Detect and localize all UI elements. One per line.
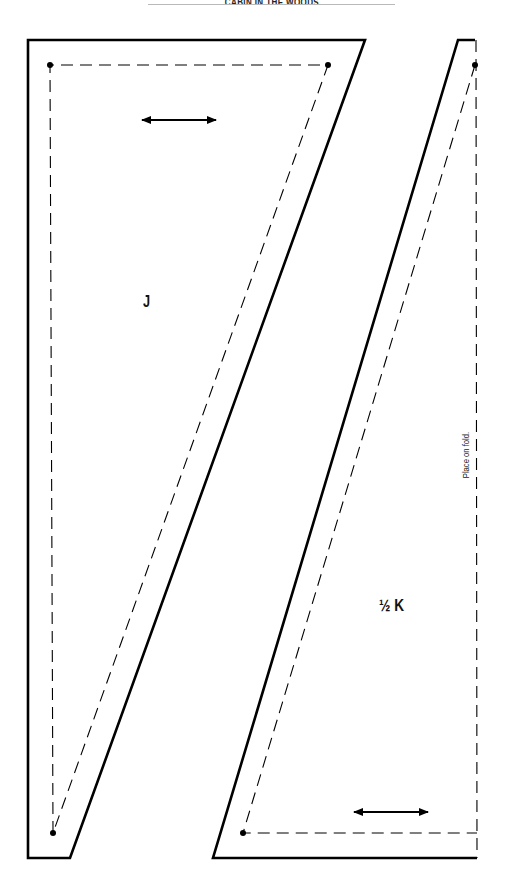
piece-k-seam-line xyxy=(243,65,477,833)
piece-j-dot-top-right xyxy=(325,62,331,68)
piece-k-label-letter: K xyxy=(394,596,404,615)
piece-k-cutting-line xyxy=(213,40,477,858)
pattern-piece-k xyxy=(213,40,478,858)
piece-k-label-fraction: ½ xyxy=(379,596,390,615)
piece-k-label: ½ K xyxy=(379,596,404,616)
piece-j-seam-line xyxy=(50,65,328,833)
piece-k-dot-bottom xyxy=(240,830,246,836)
piece-k-fold-line xyxy=(476,40,477,858)
place-on-fold-note: Place on fold. xyxy=(461,432,471,478)
piece-j-dot-top-left xyxy=(47,62,53,68)
piece-j-dot-bottom xyxy=(50,830,56,836)
piece-j-cutting-line xyxy=(28,40,365,858)
pattern-piece-j xyxy=(28,40,365,858)
piece-j-label: J xyxy=(143,292,150,312)
piece-k-dot-top xyxy=(472,62,478,68)
pattern-sheet xyxy=(0,0,510,895)
